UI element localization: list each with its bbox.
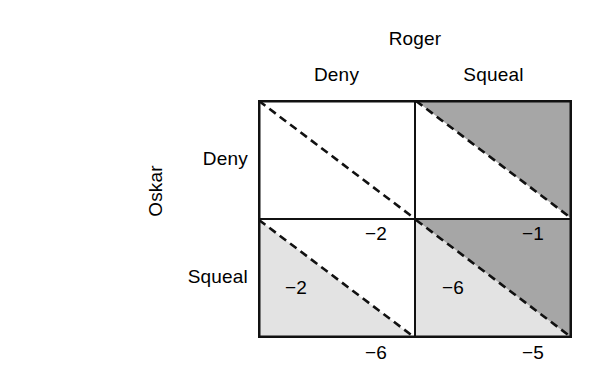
payoff-deny-deny-row: −2 — [266, 278, 326, 298]
payoff-matrix-figure: Roger Deny Squeal Oskar Deny Squeal — [0, 0, 598, 367]
payoff-squeal-deny-col: −6 — [346, 343, 406, 363]
payoff-deny-deny-col: −2 — [346, 224, 406, 244]
payoff-squeal-squeal-col: −5 — [503, 343, 563, 363]
payoff-matrix-grid: −2 −2 −1 −6 −6 −1 −5 −5 — [258, 100, 572, 338]
row-header-squeal: Squeal — [150, 266, 248, 288]
payoff-deny-squeal-col: −1 — [503, 224, 563, 244]
column-header-deny: Deny — [258, 64, 415, 86]
matrix-canvas — [258, 100, 572, 338]
row-header-deny: Deny — [150, 148, 248, 170]
column-player-label: Roger — [258, 28, 572, 50]
payoff-deny-squeal-row: −6 — [423, 278, 483, 298]
column-header-squeal: Squeal — [415, 64, 572, 86]
